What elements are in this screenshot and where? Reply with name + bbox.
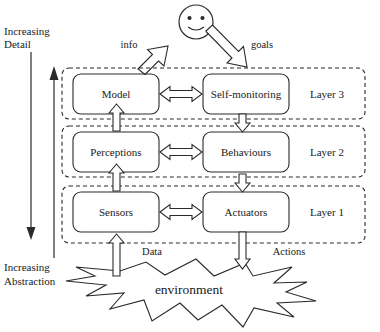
box-model-label: Model	[102, 88, 131, 100]
layer-2-label: Layer 2	[310, 146, 344, 158]
increasing-abstraction-label-line2: Abstraction	[4, 275, 56, 287]
box-self-monitoring-label: Self-monitoring	[211, 88, 282, 100]
environment-label: environment	[155, 282, 223, 297]
box-behaviours-label: Behaviours	[221, 146, 271, 158]
actions-label: Actions	[273, 246, 306, 257]
goals-arrow	[206, 25, 247, 67]
increasing-abstraction-label-line1: Increasing	[4, 261, 50, 273]
increasing-detail-axis	[27, 52, 36, 240]
architecture-diagram: Increasing Detail Increasing Abstraction…	[0, 0, 380, 332]
perceptions-to-model-arrow	[109, 104, 124, 131]
info-label: info	[121, 39, 138, 50]
increasing-detail-label-line2: Detail	[4, 38, 31, 50]
perceptions-behaviours-bidirectional-arrow	[160, 145, 202, 160]
actions-arrow	[235, 232, 250, 269]
layer-1-label: Layer 1	[310, 206, 344, 218]
goals-label: goals	[251, 39, 273, 50]
selfmonitoring-to-behaviours-arrow	[235, 114, 250, 132]
box-sensors-label: Sensors	[99, 206, 133, 218]
sensors-actuators-bidirectional-arrow	[160, 205, 202, 220]
model-selfmonitoring-bidirectional-arrow	[160, 87, 202, 102]
increasing-abstraction-axis	[50, 66, 59, 258]
box-actuators-label: Actuators	[225, 206, 268, 218]
layer-3-label: Layer 3	[310, 88, 344, 100]
diagram-canvas: Increasing Detail Increasing Abstraction…	[0, 0, 380, 332]
box-perceptions-label: Perceptions	[90, 146, 141, 158]
info-arrow	[138, 46, 168, 75]
data-label: Data	[142, 246, 162, 257]
increasing-detail-label-line1: Increasing	[4, 25, 50, 37]
